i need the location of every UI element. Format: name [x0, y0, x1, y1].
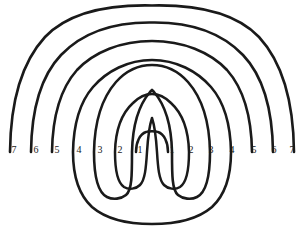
- circuit-label-left-1: 1: [134, 145, 146, 155]
- circuit-label-right-2: 2: [185, 145, 197, 155]
- circuit-label-left-3: 3: [94, 145, 106, 155]
- circuit-path-4: [73, 60, 231, 224]
- circuit-label-right-7: 7: [286, 145, 298, 155]
- circuit-label-right-4: 4: [226, 145, 238, 155]
- circuit-label-right-5: 5: [248, 145, 260, 155]
- circuit-label-left-4: 4: [73, 145, 85, 155]
- circuit-label-right-3: 3: [205, 145, 217, 155]
- circuit-label-left-5: 5: [51, 145, 63, 155]
- circuit-label-left-2: 2: [114, 145, 126, 155]
- labyrinth-drawing: [0, 0, 304, 232]
- labyrinth-figure: 7 6 5 4 3 2 1 1 2 3 4 5 6 7: [0, 0, 304, 232]
- circuit-path-5: [52, 41, 252, 152]
- circuit-label-right-1: 1: [166, 145, 178, 155]
- circuit-path-2: [115, 94, 189, 189]
- circuit-label-left-7: 7: [8, 145, 20, 155]
- circuit-label-right-6: 6: [268, 145, 280, 155]
- circuit-label-left-6: 6: [30, 145, 42, 155]
